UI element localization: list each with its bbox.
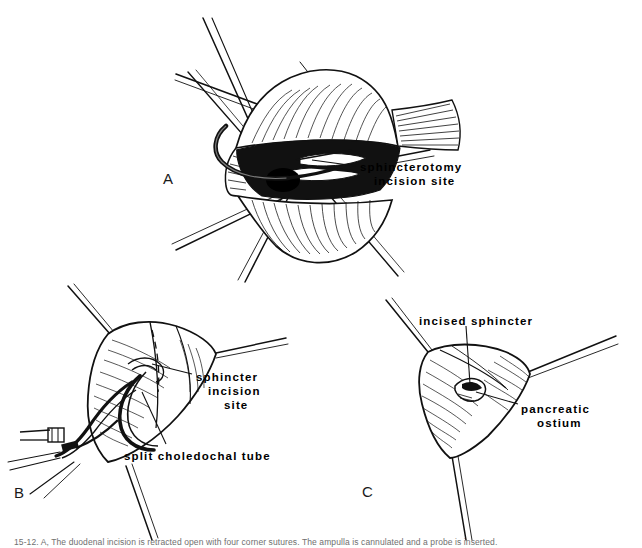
label-line: site	[224, 398, 248, 412]
panel-letter-a: A	[163, 170, 174, 187]
label-line: incision	[208, 384, 261, 398]
label-line: sphincter	[196, 371, 258, 383]
label-split-choledochal-tube: split choledochal tube	[124, 449, 271, 463]
label-line: ostium	[537, 416, 582, 430]
figure-caption: 15-12. A, The duodenal incision is retra…	[0, 537, 642, 548]
label-incised-sphincter: incised sphincter	[419, 314, 533, 328]
label-sphincterotomy-incision-site: sphincterotomyincision site	[360, 160, 462, 188]
label-sphincter-incision-site: sphincterincisionsite	[196, 370, 261, 412]
panel-letter-c: C	[362, 483, 373, 500]
label-line: sphincterotomy	[360, 161, 462, 173]
label-pancreatic-ostium: pancreaticostium	[521, 402, 590, 430]
panel-letter-b: B	[14, 484, 25, 501]
label-line: incision site	[374, 174, 455, 188]
figure-caption-text: 15-12. A, The duodenal incision is retra…	[0, 537, 642, 548]
surgical-illustration-figure	[0, 0, 642, 548]
label-line: pancreatic	[521, 403, 590, 415]
